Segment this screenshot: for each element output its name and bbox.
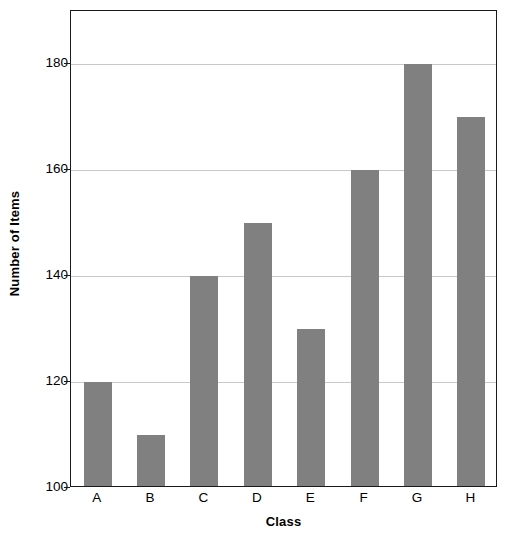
x-axis-tick-label: H (465, 491, 475, 505)
y-axis-title-text: Number of Items (8, 191, 23, 297)
y-axis-tickmark (64, 63, 70, 64)
y-axis-tick-label: 140 (30, 268, 68, 282)
bar-chart-figure: Number of Items 100120140160180 ABCDEFGH… (0, 0, 511, 540)
x-axis-tick-label: D (252, 491, 262, 505)
y-axis-tick-label: 100 (30, 480, 68, 494)
x-axis-tick-label: E (306, 491, 315, 505)
x-axis-tick-label: A (92, 491, 101, 505)
y-axis-tick-labels: 100120140160180 (30, 0, 68, 540)
x-axis-tick-label: F (359, 491, 367, 505)
y-axis-tick-label: 180 (30, 56, 68, 70)
x-axis-tick-label: C (199, 491, 209, 505)
y-axis-tickmark (64, 169, 70, 170)
y-axis-tickmark (64, 275, 70, 276)
y-axis-tickmark (64, 487, 70, 488)
y-axis-tick-label: 160 (30, 162, 68, 176)
y-axis-title: Number of Items (0, 0, 30, 487)
x-axis-tick-label: B (146, 491, 155, 505)
y-axis-tickmark (64, 381, 70, 382)
x-axis-title: Class (70, 514, 497, 529)
x-axis-tick-label: G (412, 491, 423, 505)
y-axis-tick-label: 120 (30, 374, 68, 388)
y-axis-tickmarks (70, 10, 497, 487)
x-axis-tick-labels: ABCDEFGH (70, 489, 497, 513)
